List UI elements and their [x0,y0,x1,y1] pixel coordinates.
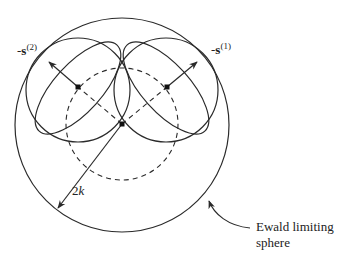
callout-text-line2: sphere [256,236,290,249]
label-2k: 2k [72,184,84,197]
dot-s2 [76,85,81,90]
label-s1: -s(1) [211,43,231,56]
label-s2-superscript: (2) [26,42,37,52]
callout-text-line1: Ewald limiting [256,220,334,233]
dot-origin [120,122,125,127]
callout-arrow [209,201,250,228]
label-2k-var: k [79,183,85,198]
dashed-link-s2 [78,87,122,124]
arrow-s2 [49,62,78,87]
dot-s1 [165,85,170,90]
label-s1-superscript: (1) [220,41,231,51]
dashed-link-s1 [122,87,167,124]
label-s2: -s(2) [17,44,37,57]
